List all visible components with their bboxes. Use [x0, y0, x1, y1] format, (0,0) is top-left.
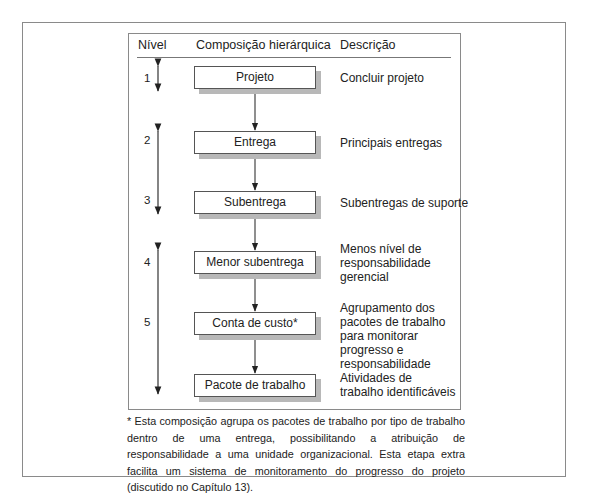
node-projeto: Projeto — [194, 66, 316, 89]
description-pacote-de-trabalho: Atividades de trabalho identificáveis — [340, 371, 455, 399]
node-pacote-de-trabalho: Pacote de trabalho — [194, 374, 316, 397]
description-projeto: Concluir projeto — [340, 71, 424, 85]
node-entrega: Entrega — [194, 131, 316, 154]
footnote: * Esta composição agrupa os pacotes de t… — [127, 413, 465, 496]
node-menor-subentrega: Menor subentrega — [194, 251, 316, 274]
node-conta-de-custo: Conta de custo* — [194, 312, 316, 335]
description-entrega: Principais entregas — [340, 136, 442, 150]
description-conta-de-custo: Agrupamento dos pacotes de trabalho para… — [340, 301, 445, 371]
description-menor-subentrega: Menos nível de responsabilidade gerencia… — [340, 242, 431, 284]
node-subentrega: Subentrega — [194, 191, 316, 214]
description-subentrega: Subentregas de suporte — [340, 196, 468, 210]
